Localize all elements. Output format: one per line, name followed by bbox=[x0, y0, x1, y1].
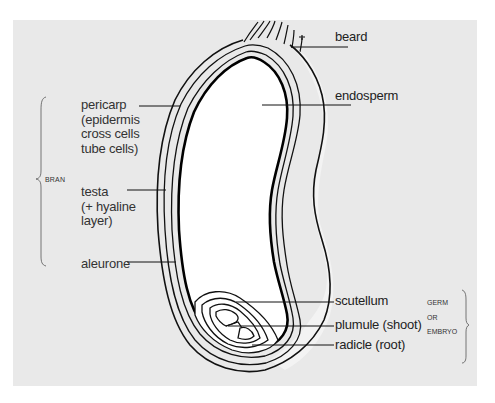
label-pericarp: pericarp (epidermis cross cells tube cel… bbox=[81, 98, 140, 156]
label-scutellum: scutellum bbox=[335, 294, 388, 307]
wheat-kernel-diagram bbox=[0, 0, 495, 403]
germ-brace bbox=[462, 290, 469, 363]
label-endosperm: endosperm bbox=[335, 89, 398, 102]
label-beard: beard bbox=[335, 30, 367, 43]
label-aleurone: aleurone bbox=[81, 257, 130, 272]
label-testa: testa (+ hyaline layer) bbox=[81, 185, 136, 229]
label-radicle: radicle (root) bbox=[335, 338, 405, 351]
label-plumule: plumule (shoot) bbox=[335, 318, 422, 331]
group-label-germ: GERM OR EMBRYO bbox=[427, 296, 457, 340]
group-label-bran: BRAN bbox=[45, 176, 65, 183]
